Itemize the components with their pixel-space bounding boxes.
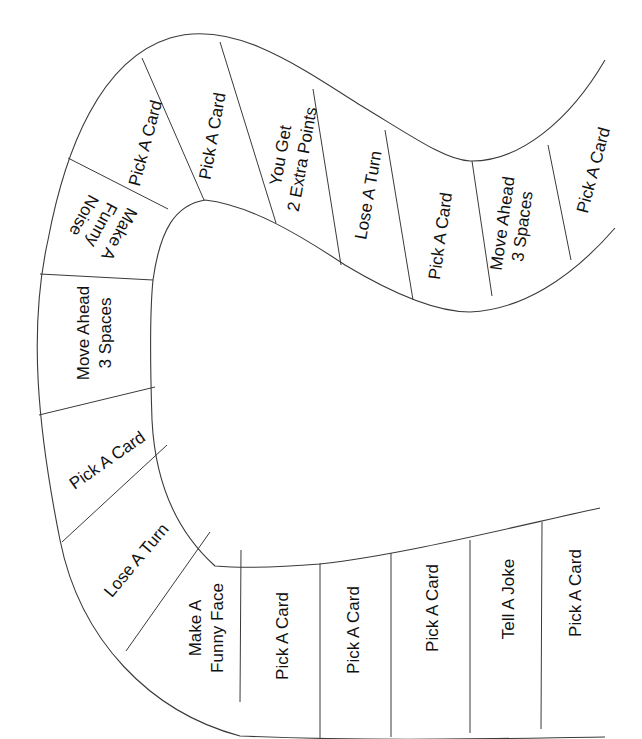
space-label: Pick A Card (344, 586, 363, 674)
space-label: Pick A Card (273, 592, 292, 680)
space-1[interactable]: Pick A Card (573, 125, 614, 215)
space-16[interactable]: Tell A Joke (499, 559, 518, 639)
space-5[interactable]: You Get 2 Extra Points (262, 102, 321, 213)
divider (385, 130, 413, 300)
space-12[interactable]: Make A Funny Face (186, 583, 227, 673)
space-label: Tell A Joke (499, 559, 518, 639)
space-label: Pick A Card (125, 98, 166, 188)
divider (472, 161, 492, 296)
space-6[interactable]: Pick A Card (196, 91, 230, 181)
divider (40, 274, 153, 280)
space-label: Lose A Turn (100, 520, 172, 601)
space-label: Funny Face (208, 583, 227, 673)
space-17[interactable]: Pick A Card (566, 549, 585, 637)
space-label: Make A (186, 599, 205, 656)
space-3[interactable]: Pick A Card (425, 191, 456, 281)
game-board: Pick A Card Tell A Joke Pick A Card Pick… (0, 0, 642, 739)
space-7[interactable]: Pick A Card (125, 98, 166, 188)
divider (548, 145, 571, 260)
divider (541, 522, 542, 729)
divider (240, 550, 241, 702)
space-2[interactable]: Move Ahead 3 Spaces (487, 175, 539, 274)
space-label: Pick A Card (566, 549, 585, 637)
space-label: Lose A Turn (351, 149, 385, 241)
space-10[interactable]: Pick A Card (66, 427, 149, 493)
space-14[interactable]: Pick A Card (344, 586, 363, 674)
space-label: Move Ahead (74, 286, 93, 381)
space-label: Pick A Card (425, 191, 456, 281)
space-label: Pick A Card (66, 427, 149, 493)
space-13[interactable]: Pick A Card (273, 592, 292, 680)
path-inner-edge (151, 200, 615, 567)
space-15[interactable]: Pick A Card (423, 564, 442, 652)
space-label: 3 Spaces (96, 298, 115, 369)
space-label: Pick A Card (573, 125, 614, 215)
space-8[interactable]: Make A Funny Noise (62, 186, 141, 264)
space-9[interactable]: Move Ahead 3 Spaces (74, 286, 115, 381)
space-label: Pick A Card (196, 91, 230, 181)
space-4[interactable]: Lose A Turn (351, 149, 385, 241)
space-11[interactable]: Lose A Turn (100, 520, 172, 601)
divider (39, 387, 155, 415)
space-label: Pick A Card (423, 564, 442, 652)
divider (220, 42, 276, 223)
